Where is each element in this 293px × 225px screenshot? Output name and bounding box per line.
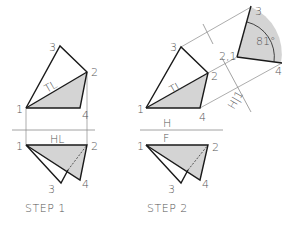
step2-group: 3 2 4 TL H F 2 3 4 H|1 3 2,1 4 81° STEP …: [140, 5, 282, 215]
step2-front-label-4: 4: [202, 178, 209, 191]
step1-front-label-1: 1: [16, 140, 23, 153]
step2-aux-label-3: 3: [255, 5, 262, 18]
step2-fold-label-bottom: F: [163, 132, 169, 145]
step2-top-label-4: 4: [199, 111, 206, 124]
step2-top-label-3: 3: [170, 41, 177, 54]
step2-fold-label-top: H: [163, 117, 171, 130]
dihedral-angle-diagram: 3 2 1 4 TL HL 1 2 3 4 STEP 1 3 2 4 T: [0, 0, 293, 225]
step2-caption: STEP 2: [147, 202, 188, 215]
step1-top-label-2: 2: [91, 66, 98, 79]
step1-top-label-4: 4: [82, 109, 89, 122]
step2-aux-fold-tick: [203, 24, 213, 44]
step2-top-label-2: 2: [211, 70, 218, 83]
step1-caption: STEP 1: [25, 202, 66, 215]
step1-front-label-3: 3: [48, 183, 55, 196]
step1-top-label-1: 1: [16, 103, 23, 116]
step1-fold-label: HL: [50, 133, 64, 146]
step2-aux-angle-label: 81°: [256, 35, 276, 48]
step2-top-label-1: 1: [137, 103, 144, 116]
step1-group: 3 2 1 4 TL HL 1 2 3 4 STEP 1: [12, 41, 98, 215]
step2-front-label-1: 1: [137, 140, 144, 153]
step2-aux-label-21: 2,1: [219, 50, 237, 63]
step2-front-label-3: 3: [168, 183, 175, 196]
step1-front-label-4: 4: [82, 178, 89, 191]
step2-front-label-2: 2: [212, 141, 219, 154]
step2-aux-label-4: 4: [275, 65, 282, 78]
step1-top-label-3: 3: [49, 41, 56, 54]
step1-front-label-2: 2: [91, 140, 98, 153]
step2-projector-3: [181, 7, 251, 47]
